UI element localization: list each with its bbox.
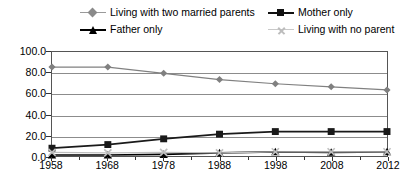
- x-axis-minor-tick: [248, 157, 249, 160]
- x-axis-minor-tick: [360, 157, 361, 160]
- series-living-with-two-married-parents: [48, 64, 390, 94]
- x-axis-minor-tick: [79, 157, 80, 160]
- triangle-marker-icon: [80, 25, 106, 35]
- x-axis-tick: [51, 157, 52, 161]
- x-axis-tick: [107, 157, 108, 161]
- x-axis: 1958196819781988199820082012: [51, 160, 388, 176]
- legend-item-living-with-no-parent: Living with no parent: [268, 24, 408, 35]
- diamond-data-point: [216, 76, 223, 83]
- legend-label: Living with two married parents: [110, 7, 255, 18]
- square-marker-icon: [268, 8, 294, 18]
- y-axis-tick-label: 20.0: [0, 131, 46, 141]
- x-axis-tick-label: 1968: [85, 160, 129, 171]
- y-axis-tick-label: 60.0: [0, 88, 46, 98]
- diamond-data-point: [48, 64, 55, 71]
- x-axis-tick: [220, 157, 221, 161]
- series-mother-only: [49, 128, 391, 152]
- x-axis-tick-label: 1978: [141, 160, 185, 171]
- diamond-data-point: [272, 80, 279, 87]
- x-axis-tick-label: 2008: [310, 160, 354, 171]
- line-chart: Living with two married parents Mother o…: [0, 0, 418, 178]
- x-axis-tick: [332, 157, 333, 161]
- legend-label: Mother only: [298, 7, 353, 18]
- x-axis-tick: [388, 157, 389, 161]
- x-axis-tick: [276, 157, 277, 161]
- x-axis-minor-tick: [304, 157, 305, 160]
- legend-item-mother-only: Mother only: [268, 7, 408, 18]
- square-data-point: [384, 128, 391, 135]
- legend-item-living-with-two-married-parents: Living with two married parents: [80, 7, 268, 18]
- x-axis-minor-tick: [191, 157, 192, 160]
- legend-item-father-only: Father only: [80, 24, 268, 35]
- diamond-data-point: [104, 64, 111, 71]
- x-axis-tick-label: 1988: [198, 160, 242, 171]
- chart-legend: Living with two married parents Mother o…: [80, 4, 410, 38]
- x-axis-tick-label: 1998: [254, 160, 298, 171]
- square-data-point: [160, 135, 167, 142]
- y-axis: 100.080.060.040.020.00.0: [0, 0, 46, 178]
- diamond-marker-icon: [80, 8, 106, 18]
- legend-label: Living with no parent: [298, 24, 394, 35]
- diamond-data-point: [160, 70, 167, 77]
- legend-label: Father only: [110, 24, 163, 35]
- square-data-point: [328, 128, 335, 135]
- diamond-data-point: [383, 86, 390, 93]
- square-data-point: [104, 141, 111, 148]
- plot-area: [51, 51, 388, 157]
- square-data-point: [216, 131, 223, 138]
- x-marker-icon: [268, 25, 294, 35]
- x-axis-tick: [163, 157, 164, 161]
- data-series-layer: [52, 52, 387, 156]
- x-axis-tick-label: 2012: [366, 160, 410, 171]
- y-axis-tick-label: 80.0: [0, 67, 46, 77]
- y-axis-tick-label: 40.0: [0, 110, 46, 120]
- y-axis-tick-label: 100.0: [0, 46, 46, 56]
- x-axis-tick-label: 1958: [29, 160, 73, 171]
- x-axis-minor-tick: [135, 157, 136, 160]
- square-data-point: [272, 128, 279, 135]
- diamond-data-point: [328, 83, 335, 90]
